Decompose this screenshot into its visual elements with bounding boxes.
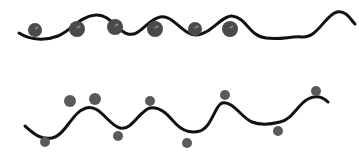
top-wave-line xyxy=(19,12,355,39)
diagram-svg xyxy=(0,0,359,155)
diagram-canvas: Two wavy lines with dots xyxy=(0,0,359,155)
bottom-dot-1 xyxy=(64,95,76,107)
bottom-dot-2 xyxy=(89,93,101,105)
bottom-dot-8 xyxy=(273,126,283,136)
bottom-wave-panel xyxy=(25,86,328,148)
top-dot-4 xyxy=(147,21,163,37)
top-dot-1 xyxy=(28,23,42,37)
bottom-dot-5 xyxy=(145,96,155,106)
top-dot-2 xyxy=(69,21,85,37)
top-wave-panel xyxy=(19,12,355,39)
top-dot-3 xyxy=(107,19,123,35)
bottom-wave-dots xyxy=(40,86,321,148)
bottom-dot-3 xyxy=(40,137,50,147)
top-dot-6 xyxy=(222,21,238,37)
bottom-dot-6 xyxy=(182,138,192,148)
bottom-dot-9 xyxy=(311,86,321,96)
bottom-dot-4 xyxy=(113,131,123,141)
bottom-dot-7 xyxy=(220,90,230,100)
top-dot-5 xyxy=(188,22,202,36)
